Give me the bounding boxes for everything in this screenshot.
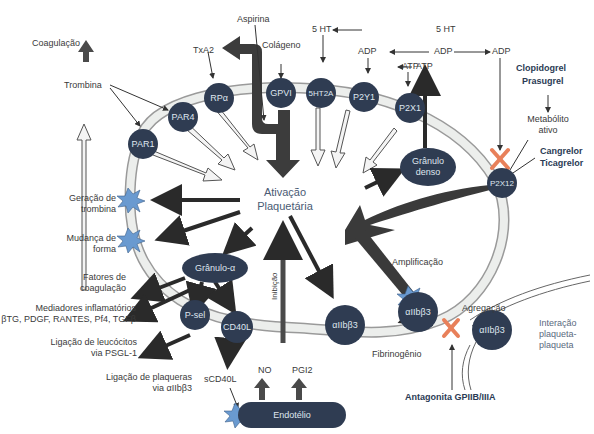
endothelium: Endotélio [238, 402, 346, 428]
label-ligacao-plaquetas: Ligação de plaqueras via αIIbβ3 [80, 372, 192, 394]
txa2-pathway-arrow [222, 36, 300, 178]
receptor-par4: PAR4 [168, 102, 198, 132]
label-ligacao-leucocitos: Ligação de leucócitos via PSGL-1 [20, 337, 137, 359]
dense-granule: Grânulodenso [400, 148, 456, 186]
amplification-arrow [345, 185, 490, 306]
label-amplificacao: Amplificação [392, 257, 443, 268]
label-colageno: Colágeno [262, 40, 301, 51]
label-adp-middle: ADP [434, 46, 453, 57]
p-selectin: P-sel [180, 300, 210, 330]
label-scd40l: sCD40L [204, 374, 237, 385]
label-inibicao: Inibição [270, 272, 279, 300]
label-agregacao: Agregação [462, 303, 506, 314]
label-adp-left: ADP [358, 46, 377, 57]
receptor-par1: PAR1 [128, 129, 158, 159]
cd40l: CD40L [221, 311, 253, 343]
integrin-aiib-b3-right: αIIbβ3 [398, 292, 438, 332]
cangrelor-pointer [510, 158, 535, 175]
receptor-p2y1: P2Y1 [349, 82, 379, 112]
label-aspirina: Aspirina [237, 14, 270, 25]
integrin-aiib-b3-left: αIIbβ3 [325, 305, 365, 345]
receptor-gpvi: GPVI [266, 78, 296, 108]
label-geracao-trombina: Geração de trombina [52, 193, 116, 215]
label-coagulacao: Coagulação [32, 38, 80, 49]
drug-antagonista-gpiib-iiia: Antagonita GPIIB/IIIA [405, 391, 496, 403]
drug-prasugrel: Prasugrel [522, 75, 564, 87]
label-fibrinogenio: Fibrinogênio [372, 349, 422, 360]
label-metabolito-ativo: Metabólito ativo [523, 114, 573, 136]
platelet-activation-label: Ativação Plaquetária [245, 185, 325, 213]
label-txa2: TxA2 [193, 45, 214, 56]
receptor-p2x12: P2X12 [487, 168, 517, 198]
receptor-5ht2a: 5HT2A [306, 78, 336, 108]
label-atp-right: ATP [416, 61, 433, 72]
label-pgi2: PGI2 [292, 365, 313, 376]
receptor-p2x1: P2X1 [395, 93, 425, 123]
label-trombina: Trombina [64, 80, 102, 91]
drug-ticagrelor: Ticagrelor [540, 157, 583, 169]
label-no: NO [258, 365, 272, 376]
drug-cangrelor: Cangrelor [540, 145, 583, 157]
label-5ht-left: 5 HT [312, 24, 332, 35]
label-5ht-right: 5 HT [436, 24, 456, 35]
metabolite-pointer [510, 140, 528, 170]
receptor-rpa: RPα [204, 83, 234, 113]
label-fatores-coagulacao: Fatores de coagulação [60, 272, 126, 294]
label-mediadores-inflamatorios: Mediadores inflamatórios βTG, PDGF, RANT… [0, 303, 136, 325]
label-adp-right: ADP [492, 46, 511, 57]
drug-clopidogrel: Clopidogrel [516, 62, 566, 74]
integrin-aiib-b3-adjacent: αIIbβ3 [472, 310, 512, 350]
label-interacao-plaqueta: Interação plaqueta- plaqueta [539, 318, 577, 351]
label-mudanca-forma: Mudança de forma [52, 233, 116, 255]
alpha-granule: Grânulo-α [182, 253, 248, 283]
